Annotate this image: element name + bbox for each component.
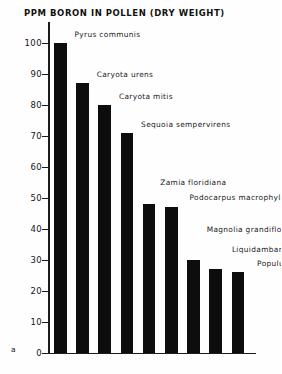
y-tick-label: 10 — [2, 317, 42, 327]
y-tick-mark — [42, 291, 49, 292]
y-tick-mark — [42, 198, 49, 199]
bar — [143, 204, 156, 353]
y-tick-label: 20 — [2, 286, 42, 296]
bar — [98, 105, 111, 353]
y-tick-mark — [42, 43, 49, 44]
y-tick-mark — [42, 322, 49, 323]
bar-label: Caryota urens — [97, 70, 154, 79]
bar-label: Sequoia sempervirens — [141, 120, 230, 129]
y-tick-mark — [42, 229, 49, 230]
bar-label: Zamia floridiana — [160, 178, 226, 187]
bar — [165, 207, 178, 353]
plot-area: 1009080706050403020100 Pyrus communisCar… — [0, 0, 281, 374]
bar-label: Magnolia grandiflora — [207, 225, 281, 234]
y-tick-mark — [42, 167, 49, 168]
y-tick-mark — [42, 260, 49, 261]
y-tick-label: 50 — [2, 193, 42, 203]
y-tick-label: 100 — [2, 38, 42, 48]
y-axis-line — [48, 22, 50, 354]
bar — [187, 260, 200, 353]
y-tick-mark — [42, 74, 49, 75]
bar-label: Liquidambar styraciflua — [232, 245, 281, 254]
y-tick-mark — [42, 353, 49, 354]
bar-label: Populus trichocarpa — [257, 259, 281, 268]
y-tick-label: 80 — [2, 100, 42, 110]
bar — [232, 272, 245, 353]
bar — [76, 83, 89, 353]
boron-pollen-bar-chart: PPM BORON IN POLLEN (DRY WEIGHT) a 10090… — [0, 0, 281, 374]
bar-label: Caryota mitis — [119, 92, 173, 101]
bar — [54, 43, 67, 353]
y-tick-mark — [42, 105, 49, 106]
y-tick-label: 60 — [2, 162, 42, 172]
y-tick-label: 90 — [2, 69, 42, 79]
bar-label: Pyrus communis — [75, 30, 141, 39]
y-tick-mark — [42, 136, 49, 137]
bar — [209, 269, 222, 353]
y-tick-label: 30 — [2, 255, 42, 265]
bar — [121, 133, 134, 353]
bar-label: Podocarpus macrophyllus — [190, 193, 282, 202]
y-tick-label: 0 — [2, 348, 42, 358]
y-tick-label: 40 — [2, 224, 42, 234]
y-tick-label: 70 — [2, 131, 42, 141]
